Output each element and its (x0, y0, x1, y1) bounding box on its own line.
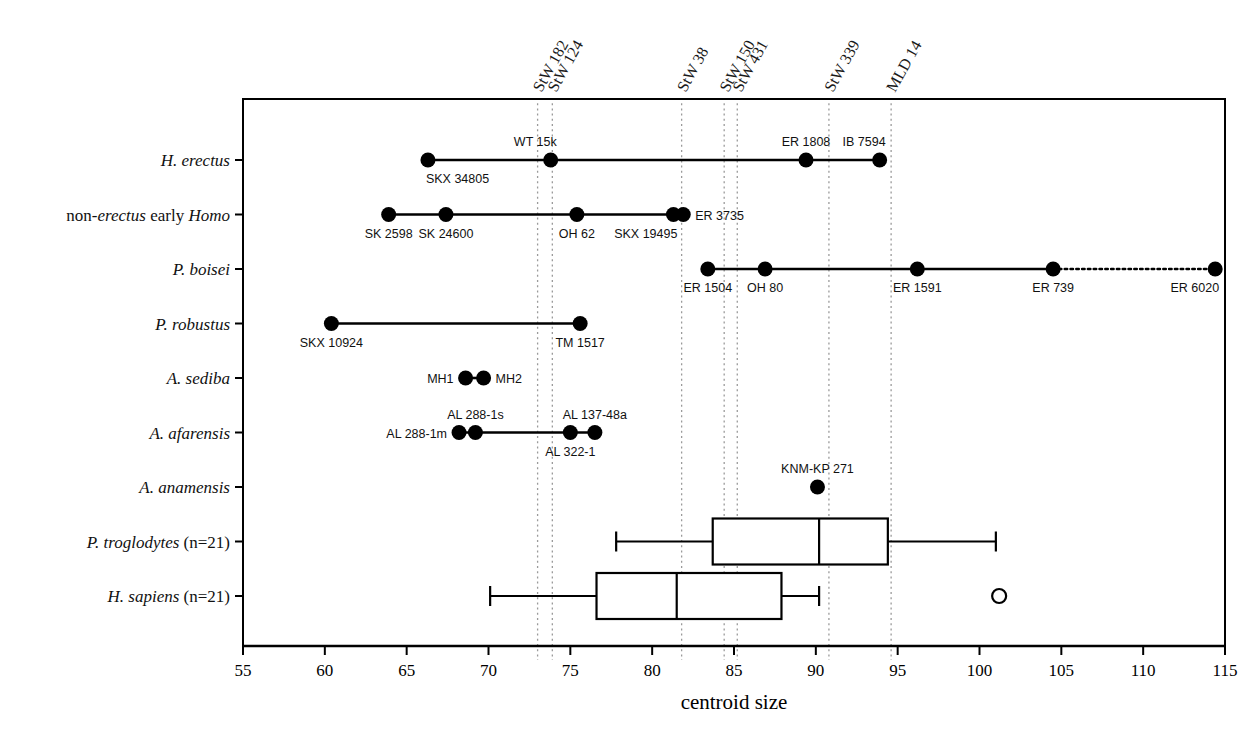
specimen-label-al-288-1s: AL 288-1s (447, 408, 504, 422)
data-point-tm-1517 (573, 316, 588, 331)
specimen-label-sk-2598: SK 2598 (365, 227, 413, 241)
specimen-label-skx-34805: SKX 34805 (426, 172, 489, 186)
top-specimen-label-mld-14: MLD 14 (883, 38, 925, 95)
data-point-ib-7594 (872, 153, 887, 168)
specimen-label-er-739: ER 739 (1032, 281, 1074, 295)
data-point-er-1808 (799, 153, 814, 168)
data-point-mh2 (476, 371, 491, 386)
series-a-afarensis: AL 288-1mAL 288-1sAL 322-1AL 137-48a (386, 408, 627, 459)
specimen-label-er-3735: ER 3735 (695, 209, 744, 223)
x-axis-tick-label-110: 110 (1131, 661, 1156, 680)
specimen-label-knm-kp-271: KNM-KP 271 (781, 462, 854, 476)
data-point-er-6020 (1208, 262, 1223, 277)
box (597, 573, 782, 619)
data-point-wt-15k (543, 153, 558, 168)
specimen-label-er-6020: ER 6020 (1171, 281, 1220, 295)
specimen-label-er-1591: ER 1591 (893, 281, 942, 295)
y-axis-label-h-sapiens-n-21: H. sapiens (n=21) (107, 587, 230, 606)
centroid-size-chart: SKX 34805WT 15kER 1808IB 7594SK 2598SK 2… (0, 0, 1246, 752)
specimen-label-skx-19495: SKX 19495 (614, 227, 677, 241)
top-specimen-label-stw-339: StW 339 (821, 37, 863, 94)
series-h-sapiens-n-21 (490, 573, 1006, 619)
specimen-label-al-322-1: AL 322-1 (545, 445, 595, 459)
box (713, 519, 888, 565)
specimen-label-ib-7594: IB 7594 (843, 135, 886, 149)
specimen-label-mh1: MH1 (427, 372, 453, 386)
series-non-erectus-early-homo: SK 2598SK 24600OH 62SKX 19495ER 3735 (365, 207, 744, 241)
data-point-al-137-48a (587, 425, 602, 440)
x-axis-tick-label-115: 115 (1213, 661, 1238, 680)
data-point-sk-24600 (438, 207, 453, 222)
data-point-er-739 (1046, 262, 1061, 277)
x-axis-tick-label-100: 100 (967, 661, 993, 680)
data-point-al-322-1 (563, 425, 578, 440)
x-axis-tick-label-70: 70 (480, 661, 497, 680)
y-axis-label-h-erectus: H. erectus (160, 151, 231, 170)
data-point-al-288-1m (452, 425, 467, 440)
series-p-boisei: ER 1504OH 80ER 1591ER 739ER 6020 (683, 262, 1222, 296)
specimen-label-oh-80: OH 80 (747, 281, 783, 295)
x-axis-tick-label-80: 80 (644, 661, 661, 680)
y-axis-label-a-anamensis: A. anamensis (138, 478, 230, 497)
series-p-troglodytes-n-21 (616, 519, 996, 565)
x-axis-tick-label-75: 75 (562, 661, 579, 680)
data-series-group: SKX 34805WT 15kER 1808IB 7594SK 2598SK 2… (300, 135, 1223, 619)
data-point-al-288-1s (468, 425, 483, 440)
outlier-point-0 (992, 589, 1006, 603)
specimen-label-tm-1517: TM 1517 (555, 336, 604, 350)
data-point-knm-kp-271 (810, 480, 825, 495)
x-axis-group: 556065707580859095100105110115centroid s… (235, 646, 1238, 714)
specimen-label-mh2: MH2 (496, 372, 522, 386)
data-point-skx-10924 (324, 316, 339, 331)
x-axis-title: centroid size (681, 690, 788, 714)
x-axis-tick-label-90: 90 (807, 661, 824, 680)
y-axis-label-a-afarensis: A. afarensis (148, 424, 230, 443)
series-p-robustus: SKX 10924TM 1517 (300, 316, 605, 350)
data-point-er-3735 (676, 207, 691, 222)
x-axis-tick-label-85: 85 (726, 661, 743, 680)
data-point-skx-34805 (420, 153, 435, 168)
specimen-label-er-1504: ER 1504 (683, 281, 732, 295)
data-point-er-1591 (910, 262, 925, 277)
y-axis-label-non-erectus-early-homo: non-erectus early Homo (66, 206, 230, 225)
data-point-er-1504 (700, 262, 715, 277)
data-point-oh-62 (569, 207, 584, 222)
specimen-label-oh-62: OH 62 (559, 227, 595, 241)
specimen-label-al-137-48a: AL 137-48a (563, 408, 627, 422)
y-axis-label-p-robustus: P. robustus (154, 315, 230, 334)
x-axis-tick-label-55: 55 (235, 661, 252, 680)
x-axis-tick-label-105: 105 (1049, 661, 1075, 680)
specimen-label-er-1808: ER 1808 (782, 135, 831, 149)
series-a-anamensis: KNM-KP 271 (781, 462, 854, 495)
y-axis-label-group: H. erectusnon-erectus early HomoP. boise… (66, 151, 243, 606)
series-h-erectus: SKX 34805WT 15kER 1808IB 7594 (420, 135, 887, 186)
x-axis-tick-label-65: 65 (398, 661, 415, 680)
y-axis-label-a-sediba: A. sediba (166, 369, 230, 388)
x-axis-tick-label-60: 60 (316, 661, 333, 680)
series-a-sediba: MH1MH2 (427, 371, 522, 387)
data-point-mh1 (458, 371, 473, 386)
specimen-label-skx-10924: SKX 10924 (300, 336, 363, 350)
specimen-label-sk-24600: SK 24600 (418, 227, 473, 241)
top-specimen-label-group: StW 182StW 124StW 38StW 150StW 431StW 33… (529, 37, 924, 94)
data-point-oh-80 (758, 262, 773, 277)
y-axis-label-p-troglodytes-n-21: P. troglodytes (n=21) (86, 533, 230, 552)
specimen-label-wt-15k: WT 15k (514, 135, 558, 149)
y-axis-label-p-boisei: P. boisei (172, 260, 231, 279)
figure-container: SKX 34805WT 15kER 1808IB 7594SK 2598SK 2… (0, 0, 1246, 752)
data-point-sk-2598 (381, 207, 396, 222)
specimen-label-al-288-1m: AL 288-1m (386, 427, 447, 441)
top-specimen-label-stw-38: StW 38 (673, 44, 711, 94)
x-axis-tick-label-95: 95 (889, 661, 906, 680)
